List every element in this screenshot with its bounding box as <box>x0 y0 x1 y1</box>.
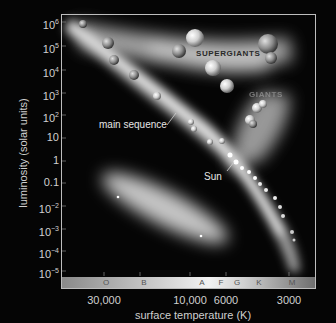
y-tick-label: 0.1 <box>44 177 59 188</box>
y-tick-label: 10−5 <box>39 265 59 280</box>
spectral-class-m: M <box>289 278 296 287</box>
x-tick-label: 3000 <box>277 294 301 306</box>
y-tick-label: 103 <box>43 87 59 102</box>
spectral-class-g: G <box>234 278 240 287</box>
y-tick-label: 10−3 <box>39 223 59 238</box>
x-tick-label: 30,000 <box>87 294 121 306</box>
supergiants-label: SUPERGIANTS <box>196 49 260 58</box>
y-tick-label: 10−4 <box>39 245 59 260</box>
spectral-class-b: B <box>141 278 146 287</box>
y-tick-label: 105 <box>43 40 59 55</box>
y-tick-label: 10−2 <box>39 200 59 215</box>
y-tick-label: 10 <box>47 132 59 143</box>
y-tick-label: 1 <box>53 155 59 166</box>
x-axis-label: surface temperature (K) <box>0 309 336 321</box>
y-tick-label: 104 <box>43 64 59 79</box>
y-tick-label: 102 <box>43 109 59 124</box>
spectral-class-band <box>62 277 315 288</box>
spectral-class-f: F <box>219 278 224 287</box>
y-tick-label: 106 <box>43 16 59 31</box>
x-tick-label: 10,000 <box>173 294 207 306</box>
main-sequence-label: main sequence <box>99 119 167 130</box>
hr-diagram: 1061051041031021010.110−210−310−410−5 30… <box>0 0 336 323</box>
giants-label: GIANTS <box>249 90 283 99</box>
y-axis-label: luminosity (solar units) <box>17 88 29 218</box>
spectral-class-o: O <box>103 278 109 287</box>
spectral-class-a: A <box>199 278 204 287</box>
sun-label: Sun <box>204 171 222 182</box>
x-tick-marks <box>104 272 289 276</box>
y-tick-marks <box>62 22 66 271</box>
x-tick-label: 6000 <box>214 294 238 306</box>
spectral-class-k: K <box>256 278 261 287</box>
